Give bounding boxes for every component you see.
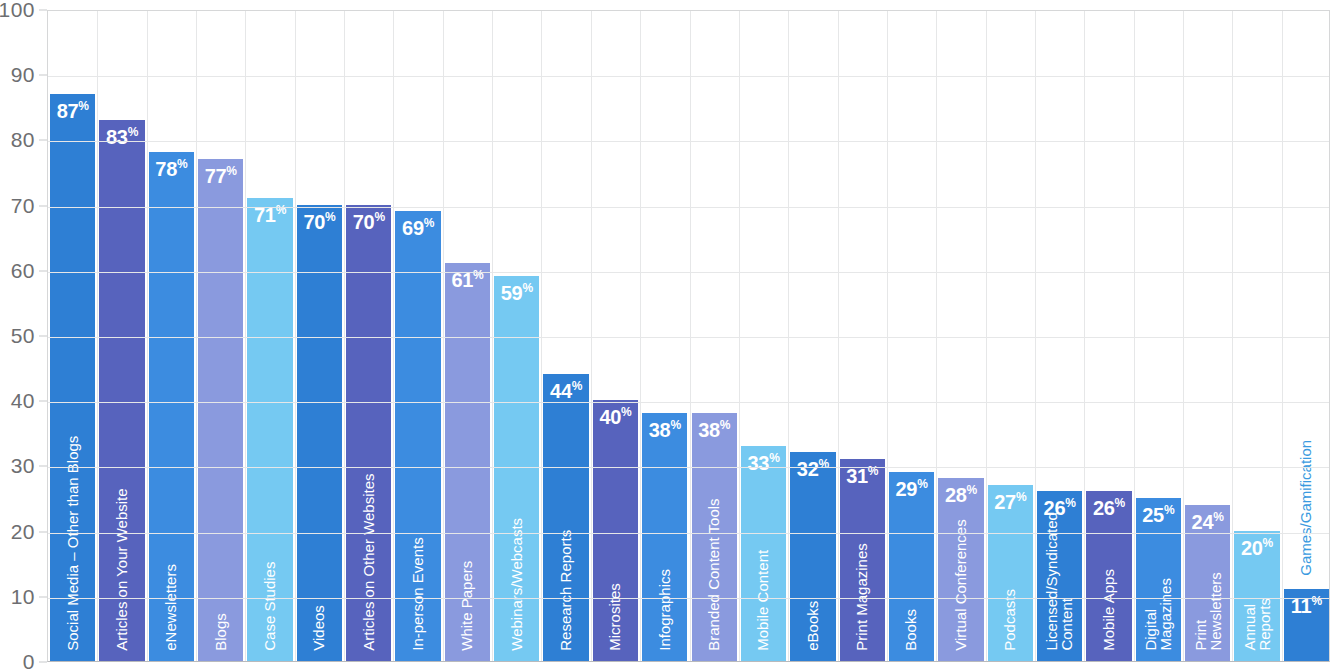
bar-slot: 32%eBooks: [788, 11, 837, 661]
bar-value-number: 78: [155, 158, 177, 180]
bar-value-label: 78%: [149, 158, 194, 179]
bar-value-label: 44%: [543, 380, 588, 401]
percent-sign: %: [424, 216, 434, 230]
bar-value-label: 59%: [494, 282, 539, 303]
bars-container: 87%Social Media – Other than Blogs83%Art…: [48, 11, 1329, 661]
y-axis-tick-mark: [39, 662, 47, 663]
bar-slot: 26%Licensed/Syndicated Content: [1035, 11, 1084, 661]
bar-slot: 31%Print Magazines: [838, 11, 887, 661]
slot-separator: [1134, 11, 1135, 661]
percent-sign: %: [374, 210, 384, 224]
bar-slot: 40%Microsites: [591, 11, 640, 661]
bar-value-number: 26: [1093, 497, 1115, 519]
bar-value-number: 28: [945, 484, 967, 506]
bar-value-number: 70: [353, 210, 375, 232]
slot-separator: [295, 11, 296, 661]
bar-slot: 70%Articles on Other Websites: [344, 11, 393, 661]
y-axis-tick-mark: [39, 401, 47, 402]
percent-sign: %: [1065, 496, 1075, 510]
bar[interactable]: 77%: [198, 159, 243, 661]
gridline: [48, 402, 1329, 403]
bar-value-label: 24%: [1185, 511, 1230, 532]
y-axis-tick-mark: [39, 596, 47, 597]
bar-category-label: Case Studies: [262, 562, 278, 651]
bar-category-label: Articles on Your Website: [114, 489, 130, 651]
bar-value-number: 24: [1192, 510, 1214, 532]
bar-category-label: Branded Content Tools: [706, 499, 722, 651]
slot-separator: [344, 11, 345, 661]
percent-sign: %: [621, 405, 631, 419]
bar-category-label: Annual Reports: [1242, 598, 1273, 651]
gridline: [48, 533, 1329, 534]
y-axis-tick-label: 50: [11, 324, 35, 348]
bar-category-label: White Papers: [460, 561, 476, 651]
bar-value-label: 69%: [395, 217, 440, 238]
bar-category-label: Microsites: [608, 583, 624, 651]
bar-category-label: Blogs: [213, 613, 229, 651]
y-axis-tick-label: 60: [11, 259, 35, 283]
bar-category-label: Digital Magazines: [1144, 578, 1175, 651]
y-axis-tick-label: 0: [23, 650, 35, 670]
bar-chart: 1009080706050403020100 87%Social Media –…: [0, 0, 1336, 670]
bar[interactable]: 70%: [297, 205, 342, 661]
bar-slot: 38%Branded Content Tools: [690, 11, 739, 661]
percent-sign: %: [522, 281, 532, 295]
percent-sign: %: [78, 99, 88, 113]
y-axis-tick-mark: [39, 140, 47, 141]
bar-category-label: Mobile Content: [756, 550, 772, 651]
percent-sign: %: [868, 464, 878, 478]
bar[interactable]: 11%: [1284, 589, 1329, 661]
y-axis-tick-label: 40: [11, 389, 35, 413]
percent-sign: %: [325, 210, 335, 224]
y-axis-tick-label: 20: [11, 520, 35, 544]
bar-category-label: Articles on Other Websites: [361, 474, 377, 651]
gridline: [48, 598, 1329, 599]
slot-separator: [147, 11, 148, 661]
gridline: [48, 76, 1329, 77]
bar-value-number: 32: [797, 458, 819, 480]
bar-value-label: 83%: [99, 126, 144, 147]
bar-slot: 61%White Papers: [443, 11, 492, 661]
gridline: [48, 141, 1329, 142]
bar-slot: 11%Games/Gamification: [1282, 11, 1331, 661]
percent-sign: %: [967, 483, 977, 497]
slot-separator: [1035, 11, 1036, 661]
percent-sign: %: [769, 451, 779, 465]
slot-separator: [1084, 11, 1085, 661]
slot-separator: [887, 11, 888, 661]
y-axis-tick-mark: [39, 531, 47, 532]
plot-area: 87%Social Media – Other than Blogs83%Art…: [47, 10, 1330, 662]
bar-value-label: 20%: [1234, 537, 1279, 558]
bar-value-label: 25%: [1136, 504, 1181, 525]
slot-separator: [640, 11, 641, 661]
slot-separator: [936, 11, 937, 661]
bar-slot: 33%Mobile Content: [739, 11, 788, 661]
percent-sign: %: [1311, 594, 1321, 608]
slot-separator: [245, 11, 246, 661]
y-axis-tick-mark: [39, 205, 47, 206]
percent-sign: %: [720, 418, 730, 432]
bar-value-label: 70%: [297, 211, 342, 232]
slot-separator: [393, 11, 394, 661]
bar-category-label: Print Newsletters: [1193, 573, 1224, 651]
bar-slot: 69%In-person Events: [393, 11, 442, 661]
bar-value-number: 77: [205, 165, 227, 187]
bar-value-label: 29%: [889, 478, 934, 499]
slot-separator: [443, 11, 444, 661]
bar-value-label: 38%: [642, 419, 687, 440]
bar-value-number: 69: [402, 217, 424, 239]
bar-value-label: 77%: [198, 165, 243, 186]
percent-sign: %: [128, 125, 138, 139]
gridline: [48, 272, 1329, 273]
slot-separator: [690, 11, 691, 661]
y-axis-tick-mark: [39, 75, 47, 76]
slot-separator: [541, 11, 542, 661]
y-axis-tick-mark: [39, 270, 47, 271]
y-axis-tick-mark: [39, 466, 47, 467]
percent-sign: %: [276, 203, 286, 217]
bar-category-label: Virtual Conferences: [953, 520, 969, 651]
bar-value-number: 33: [748, 452, 770, 474]
slot-separator: [838, 11, 839, 661]
gridline: [48, 467, 1329, 468]
bar-slot: 78%eNewsletters: [147, 11, 196, 661]
